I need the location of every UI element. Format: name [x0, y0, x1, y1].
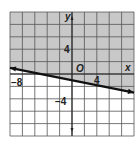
- x-tick-neg8: −8: [11, 77, 23, 88]
- y-axis-label: y: [64, 11, 71, 22]
- inequality-graph: y x O 4 −4 −8 4: [0, 0, 138, 146]
- origin-label: O: [76, 63, 84, 74]
- y-tick-4: 4: [64, 44, 70, 55]
- x-axis-label: x: [124, 62, 131, 73]
- y-tick-neg4: −4: [55, 96, 67, 107]
- x-tick-4: 4: [94, 75, 100, 86]
